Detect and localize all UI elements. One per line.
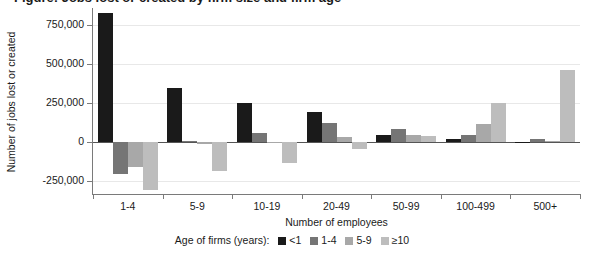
gridline: [93, 103, 580, 104]
bar: [376, 135, 391, 142]
bar: [421, 136, 436, 142]
bar: [461, 135, 476, 142]
y-tick-label: 250,000: [0, 96, 84, 108]
bar: [197, 142, 212, 144]
bar: [182, 141, 197, 143]
x-tick-label: 100-499: [441, 200, 511, 212]
zero-line: [93, 142, 580, 143]
bar: [446, 139, 461, 142]
bar: [476, 124, 491, 143]
y-tick-label: 500,000: [0, 57, 84, 69]
bar: [491, 103, 506, 143]
legend-label: <1: [289, 234, 301, 246]
bar: [143, 142, 158, 190]
bar: [391, 129, 406, 142]
x-axis-spine: [92, 194, 581, 195]
chart-title: Figure: Jobs lost or created by firm siz…: [14, 0, 341, 5]
legend-swatch-icon: [278, 237, 286, 245]
legend-swatch-icon: [381, 237, 389, 245]
legend-item[interactable]: ≥10: [381, 234, 409, 246]
chart-figure: Figure: Jobs lost or created by firm siz…: [0, 0, 593, 257]
bar: [530, 139, 545, 142]
x-tick-mark: [93, 194, 94, 199]
y-tick-label: -250,000: [0, 174, 84, 186]
legend-label: 5-9: [356, 234, 371, 246]
gridline: [93, 64, 580, 65]
bar: [337, 137, 352, 142]
bar: [322, 123, 337, 143]
bar: [113, 142, 128, 174]
x-tick-label: 50-99: [371, 200, 441, 212]
x-tick-label: 5-9: [163, 200, 233, 212]
x-tick-mark: [232, 194, 233, 199]
bar: [252, 133, 267, 142]
gridline: [93, 181, 580, 182]
y-tick-label: 750,000: [0, 18, 84, 30]
bar: [307, 112, 322, 142]
bar: [167, 88, 182, 142]
bar: [406, 135, 421, 142]
bar: [545, 141, 560, 143]
legend-label: ≥10: [392, 234, 409, 246]
x-tick-mark: [163, 194, 164, 199]
legend-item[interactable]: <1: [278, 234, 301, 246]
x-tick-mark: [371, 194, 372, 199]
bar: [267, 142, 282, 143]
x-tick-label: 500+: [510, 200, 580, 212]
bar: [128, 142, 143, 166]
legend-swatch-icon: [345, 237, 353, 245]
bar: [352, 142, 367, 149]
chart-legend: Age of firms (years): <11-45-9≥10: [0, 234, 593, 246]
x-tick-label: 10-19: [232, 200, 302, 212]
gridline: [93, 25, 580, 26]
x-tick-label: 20-49: [302, 200, 372, 212]
legend-title: Age of firms (years):: [175, 234, 270, 246]
legend-swatch-icon: [310, 237, 318, 245]
legend-label: 1-4: [321, 234, 336, 246]
y-tick-label: 0: [0, 135, 84, 147]
x-tick-mark: [510, 194, 511, 199]
legend-item[interactable]: 5-9: [345, 234, 371, 246]
x-tick-label: 1-4: [93, 200, 163, 212]
bar: [212, 142, 227, 171]
legend-item[interactable]: 1-4: [310, 234, 336, 246]
plot-area: [93, 8, 580, 194]
bar: [282, 142, 297, 162]
x-tick-mark: [441, 194, 442, 199]
bar: [515, 142, 530, 143]
x-tick-mark: [302, 194, 303, 199]
x-tick-mark: [580, 194, 581, 199]
bar: [237, 103, 252, 143]
bar: [560, 70, 575, 143]
bar: [98, 13, 113, 143]
x-axis-label: Number of employees: [93, 216, 580, 228]
